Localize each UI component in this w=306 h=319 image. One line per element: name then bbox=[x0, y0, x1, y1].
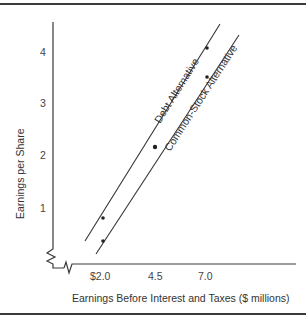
data-point bbox=[101, 216, 105, 220]
bottom-rule bbox=[0, 313, 306, 315]
y-tick-label: 4 bbox=[40, 46, 46, 58]
y-tick-label: 1 bbox=[40, 202, 46, 214]
x-tick-label: 4.5 bbox=[148, 270, 163, 282]
data-point bbox=[205, 46, 209, 50]
data-point bbox=[101, 239, 105, 243]
intersection-point bbox=[153, 145, 157, 149]
x-tick-label: $2.0 bbox=[90, 270, 111, 282]
chart: 1 2 3 4 $2.0 4.5 7.0 Earnings Before Int… bbox=[0, 0, 306, 319]
x-tick-label: 7.0 bbox=[198, 270, 213, 282]
y-axis bbox=[47, 22, 64, 268]
y-tick-label: 3 bbox=[40, 97, 46, 109]
x-axis-title: Earnings Before Interest and Taxes ($ mi… bbox=[72, 292, 290, 304]
debt-alternative-line bbox=[85, 24, 220, 241]
y-tick-label: 2 bbox=[40, 149, 46, 161]
y-axis-title: Earnings per Share bbox=[14, 128, 26, 219]
